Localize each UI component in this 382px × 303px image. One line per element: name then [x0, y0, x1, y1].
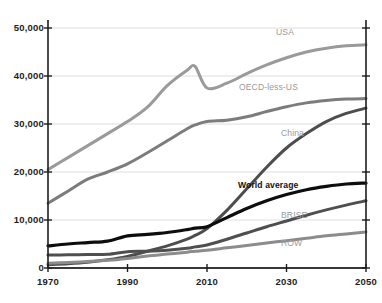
- y-tick-label: 50,000: [0, 23, 44, 33]
- series-label-row: ROW: [281, 239, 302, 248]
- series-label-oecd-less-us: OECD-less-US: [239, 83, 298, 92]
- gridlines: [48, 28, 366, 268]
- x-tick-label: 2050: [344, 277, 382, 287]
- series-label-china: China: [281, 129, 304, 138]
- series-lines: [48, 45, 366, 265]
- series-line: [48, 45, 366, 170]
- chart-plot-area: [0, 0, 382, 303]
- y-tick-label: 10,000: [0, 215, 44, 225]
- x-tick-label: 2030: [265, 277, 309, 287]
- y-tick-label: 0: [0, 263, 44, 273]
- x-tick-label: 2010: [185, 277, 229, 287]
- line-chart: 010,00020,00030,00040,00050,000 19701990…: [0, 0, 382, 303]
- series-label-brise: BRISE: [281, 211, 307, 220]
- series-label-usa: USA: [276, 28, 294, 37]
- x-tick-label: 1970: [26, 277, 70, 287]
- x-tick-label: 1990: [106, 277, 150, 287]
- series-label-world-average: World average: [238, 181, 298, 190]
- y-tick-label: 20,000: [0, 167, 44, 177]
- y-tick-label: 40,000: [0, 71, 44, 81]
- axes: [48, 20, 366, 268]
- series-line: [48, 232, 366, 263]
- y-tick-label: 30,000: [0, 119, 44, 129]
